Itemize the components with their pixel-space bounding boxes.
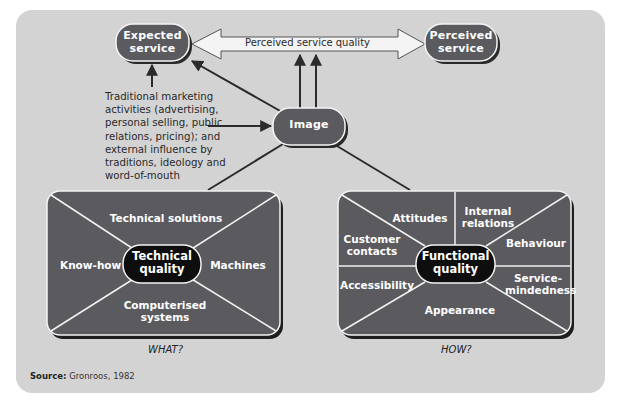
expected-service-line2: service xyxy=(116,43,189,56)
functional-quality-line2: quality xyxy=(416,263,495,276)
computerised-line2: systems xyxy=(115,311,215,323)
perceived-service-label: Perceived service xyxy=(425,30,497,55)
segment-appearance: Appearance xyxy=(420,304,500,316)
segment-attitudes: Attitudes xyxy=(390,212,450,224)
image-label: Image xyxy=(273,119,345,132)
functional-quality-label: Functional quality xyxy=(416,250,495,276)
customer-line2: contacts xyxy=(340,245,404,257)
segment-internal-relations: Internal relations xyxy=(460,205,516,229)
segment-service-mindedness: Service- mindedness xyxy=(505,272,571,296)
segment-behaviour: Behaviour xyxy=(505,237,567,249)
segment-technical-solutions: Technical solutions xyxy=(105,212,227,224)
segment-machines: Machines xyxy=(206,259,270,271)
source-label: Source: xyxy=(30,371,66,381)
expected-service-line1: Expected xyxy=(116,30,189,43)
what-caption: WHAT? xyxy=(148,344,183,355)
segment-accessibility: Accessibility xyxy=(340,279,410,291)
influences-text: Traditional marketing activities (advert… xyxy=(105,90,245,182)
how-caption: HOW? xyxy=(441,344,472,355)
service-line1: Service- xyxy=(505,272,571,284)
technical-quality-label: Technical quality xyxy=(123,250,201,276)
segment-customer-contacts: Customer contacts xyxy=(340,233,404,257)
internal-line2: relations xyxy=(460,217,516,229)
segment-know-how: Know-how xyxy=(60,259,120,271)
source-note: Source: Gronroos, 1982 xyxy=(30,371,135,381)
customer-line1: Customer xyxy=(340,233,404,245)
perceived-service-line1: Perceived xyxy=(425,30,497,43)
perceived-service-quality-label: Perceived service quality xyxy=(190,37,425,48)
source-text: Gronroos, 1982 xyxy=(69,371,135,381)
expected-service-label: Expected service xyxy=(116,30,189,55)
image-to-functional-line xyxy=(337,146,410,190)
computerised-line1: Computerised xyxy=(115,299,215,311)
segment-computerised-systems: Computerised systems xyxy=(115,299,215,323)
technical-quality-line2: quality xyxy=(123,263,201,276)
diagram-graphics xyxy=(0,0,619,406)
internal-line1: Internal xyxy=(460,205,516,217)
perceived-service-line2: service xyxy=(425,43,497,56)
service-line2: mindedness xyxy=(505,284,571,296)
